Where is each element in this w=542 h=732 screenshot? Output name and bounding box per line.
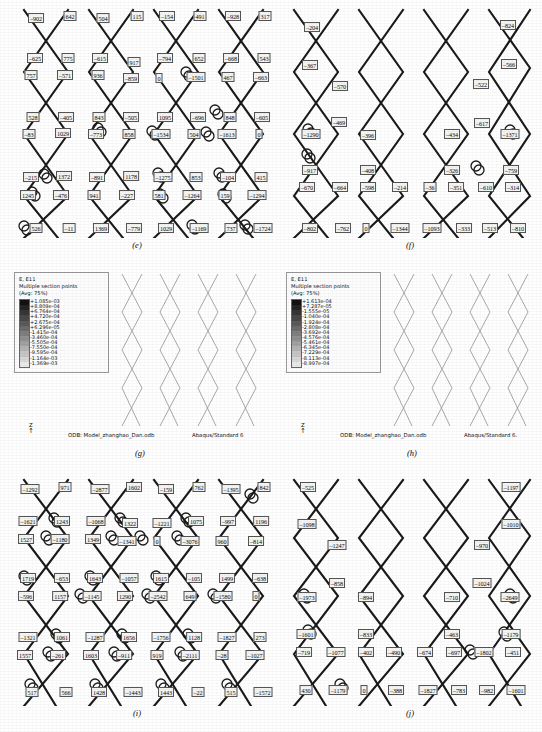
force-value-box: 1615	[153, 573, 169, 583]
force-value-box: 1245	[20, 190, 36, 200]
legend-value: -1.369e-03	[30, 361, 60, 366]
panel-f-caption: (f)	[406, 240, 414, 250]
force-value-box: 1557	[17, 650, 33, 660]
force-value-box: 649	[184, 591, 197, 601]
force-value-box: –1179	[502, 629, 521, 639]
force-value-box: –696	[190, 112, 206, 122]
panel-f-hinge-markers	[302, 124, 518, 175]
force-value-box: –402	[358, 647, 374, 657]
force-value-box: 273	[254, 632, 267, 642]
force-value-box: –1180	[51, 534, 70, 544]
force-value-box: –596	[18, 591, 34, 601]
force-value-box: 917	[128, 57, 141, 67]
panel-h-legend-title-1: Multiple section points	[291, 283, 376, 290]
force-value-box: –1145	[83, 591, 102, 601]
force-value-box: –917	[302, 165, 318, 175]
legend-value: -8.997e-04	[302, 361, 332, 366]
panel-i-truss-svg	[10, 478, 272, 706]
force-value-box: –1443	[124, 687, 143, 697]
force-value-box: –522	[473, 79, 489, 89]
force-value-box: –476	[53, 190, 69, 200]
panel-f-lattice-diagram	[282, 6, 534, 238]
force-value-box: 1372	[56, 171, 72, 181]
force-value-box: 1075	[188, 516, 204, 526]
force-value-box: 1322	[122, 518, 138, 528]
force-value-box: 0	[361, 685, 368, 695]
force-value-box: –326	[444, 165, 460, 175]
panel-h-product-label: Abaqus/Standard 6.	[464, 432, 517, 438]
force-value-box: –697	[446, 647, 462, 657]
force-value-box: –610	[478, 182, 494, 192]
force-value-box: 515	[225, 687, 238, 697]
panel-e-lattice-diagram	[10, 6, 272, 238]
force-value-box: –710	[444, 592, 460, 602]
force-value-box: 0	[154, 536, 161, 546]
force-value-box: –814	[248, 536, 264, 546]
force-value-box: –1024	[473, 578, 492, 588]
force-value-box: –1027	[246, 650, 265, 660]
force-value-box: 517	[26, 687, 39, 697]
panel-h-legend: E, E11 Multiple section points (Avg: 75%…	[286, 272, 381, 373]
force-value-box: 936	[92, 70, 105, 80]
force-value-box: –351	[448, 182, 464, 192]
force-value-box: 853	[190, 172, 203, 182]
force-value-box: –1601	[297, 629, 316, 639]
force-value-box: –1077	[327, 647, 346, 657]
force-value-box: –204	[304, 22, 320, 32]
force-value-box: 642	[64, 11, 77, 21]
force-value-box: –83	[23, 129, 36, 139]
force-value-box: 159	[219, 190, 232, 200]
force-value-box: –1098	[298, 519, 317, 529]
force-value-box: 843	[93, 112, 106, 122]
panel-h-legend-swatches	[291, 299, 300, 368]
force-value-box: –615	[92, 53, 108, 63]
force-value-box: –891	[89, 172, 105, 182]
force-value-box: 430	[300, 685, 313, 695]
force-value-box: –469	[331, 117, 347, 127]
force-value-box: 960	[216, 536, 229, 546]
force-value-box: 858	[123, 129, 136, 139]
force-value-box: –408	[360, 165, 376, 175]
force-value-box: 941	[88, 190, 101, 200]
force-value-box: –513	[482, 223, 498, 233]
panel-e-caption: (e)	[132, 240, 141, 250]
force-value-box: –2111	[181, 650, 200, 660]
force-value-box: 528	[27, 112, 40, 122]
force-value-box: –833	[358, 629, 374, 639]
panel-h-z-axis-indicator: Z ↑	[300, 422, 306, 434]
force-value-box: 504	[188, 129, 201, 139]
panel-i-lattice-diagram	[10, 478, 272, 706]
panel-f-truss-svg	[282, 6, 534, 238]
force-value-box: 848	[224, 112, 237, 122]
panel-g-legend-values: +1.085e-03+8.809e-04+6.764e-04+4.720e-04…	[30, 299, 60, 368]
force-value-box: –451	[505, 647, 521, 657]
force-value-box: 737	[225, 223, 238, 233]
force-value-box: –28	[216, 650, 229, 660]
force-value-box: 0	[253, 591, 260, 601]
force-value-box: –105	[186, 573, 202, 583]
force-value-box: –605	[254, 112, 270, 122]
force-value-box: 1029	[158, 223, 174, 233]
force-value-box: 1029	[55, 128, 71, 138]
panel-h-axis-arrow-icon: ↑	[300, 428, 306, 434]
legend-swatch	[19, 362, 30, 368]
force-value-box: –2649	[501, 592, 520, 602]
panel-e-truss-svg	[10, 6, 272, 238]
force-value-box: –388	[388, 685, 404, 695]
force-value-box: –314	[505, 182, 521, 192]
force-value-box: –1613	[218, 129, 237, 139]
force-value-box: –1395	[222, 484, 241, 494]
panel-h-contour-plot	[392, 272, 542, 434]
force-value-box: –759	[503, 165, 519, 175]
panel-g-caption: (g)	[135, 448, 145, 458]
force-value-box: 971	[59, 482, 72, 492]
force-value-box: –1724	[254, 223, 273, 233]
force-value-box: 762	[193, 482, 206, 492]
force-value-box: –261	[50, 650, 66, 660]
force-value-box: –215	[23, 172, 39, 182]
force-value-box: –928	[225, 11, 241, 21]
force-value-box: –159	[158, 484, 174, 494]
force-value-box: 1196	[253, 516, 269, 526]
force-value-box: –2542	[149, 591, 168, 601]
force-value-box: 115	[131, 11, 144, 21]
